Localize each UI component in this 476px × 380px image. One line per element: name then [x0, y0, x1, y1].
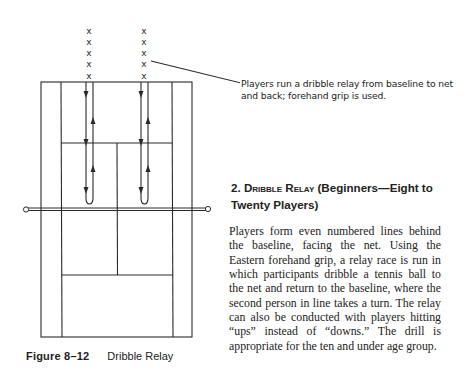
tennis-court-diagram: x x x x x x x x x x — [0, 0, 240, 350]
player-line-left: x x x x x — [86, 26, 92, 81]
player-x-icon: x — [141, 71, 147, 81]
figure-callout-text: Players run a dribble relay from baselin… — [241, 78, 471, 102]
singles-sideline-left — [61, 82, 62, 337]
player-x-icon: x — [86, 48, 92, 58]
player-x-icon: x — [141, 59, 147, 69]
net-post-icon — [23, 207, 28, 212]
player-x-icon: x — [86, 26, 92, 36]
section-heading: 2. Dribble Relay (Beginners—Eight to Twe… — [231, 179, 471, 213]
player-x-icon: x — [86, 37, 92, 47]
figure-title: Dribble Relay — [107, 350, 173, 362]
section-body-paragraph: Players form even numbered lines behind … — [229, 224, 441, 353]
arrow-up-icon — [146, 165, 151, 172]
player-x-icon: x — [141, 37, 147, 47]
arrow-up-icon — [146, 117, 151, 124]
player-x-icon: x — [86, 59, 92, 69]
figure-caption: Figure 8–12Dribble Relay — [26, 350, 173, 362]
player-x-icon: x — [141, 48, 147, 58]
singles-sideline-right — [172, 82, 173, 337]
section-number: 2. — [231, 181, 241, 194]
arrow-down-icon — [139, 91, 144, 98]
figure-number: Figure 8–12 — [26, 350, 89, 362]
arrow-up-icon — [91, 117, 96, 124]
player-x-icon: x — [86, 71, 92, 81]
arrow-down-icon — [84, 187, 89, 194]
callout-leader-line — [151, 61, 240, 83]
court-outline — [41, 82, 192, 337]
arrow-down-icon — [139, 187, 144, 194]
arrow-down-icon — [84, 91, 89, 98]
section-name: Dribble Relay — [244, 181, 314, 194]
player-line-right: x x x x x — [141, 26, 147, 81]
net-post-icon — [205, 206, 210, 211]
arrow-up-icon — [91, 165, 96, 172]
center-service-line — [117, 143, 118, 275]
player-x-icon: x — [141, 26, 147, 36]
